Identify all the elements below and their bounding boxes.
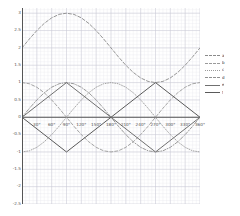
x-tick-label: 60° [48,123,55,127]
y-axis-spine [22,8,23,204]
x-tick-label: 120° [76,123,86,127]
legend-line-sample [205,85,220,86]
legend-item-label: c [222,68,224,72]
legend-item[interactable]: a [205,52,240,59]
y-tick-label: 2.5 [1,28,21,32]
legend-line-sample [205,55,220,56]
x-tick-label: 210° [121,123,131,127]
x-tick-label: 150° [91,123,101,127]
y-axis-tick-labels: 32.521.510.50-0.5-1-1.5-2-2.5 [0,8,21,204]
y-tick-label: 1 [1,80,21,84]
legend-item[interactable]: d [205,74,240,81]
legend-item-label: e [222,83,224,87]
chart-screenshot: 32.521.510.50-0.5-1-1.5-2-2.5 30°60°90°1… [0,0,240,216]
legend-item[interactable]: c [205,67,240,74]
plot-canvas [22,8,200,204]
legend-line-sample [205,92,220,93]
y-tick-label: 2 [1,46,21,50]
plot-area [22,8,200,204]
legend-item-label: a [222,54,224,58]
chart-legend: abcdef [205,52,240,98]
y-tick-label: -2 [1,184,21,188]
legend-item[interactable]: f [205,89,240,96]
legend-item-label: b [222,61,225,65]
x-tick-label: 30° [33,123,40,127]
legend-line-sample [205,63,220,64]
legend-item[interactable]: b [205,59,240,66]
y-tick-label: 3 [1,11,21,15]
x-tick-label: 360° [195,123,205,127]
legend-item-label: f [222,91,223,95]
y-tick-label: -1 [1,150,21,154]
x-tick-label: 240° [136,123,146,127]
legend-item[interactable]: e [205,82,240,89]
legend-line-sample [205,70,220,71]
x-tick-label: 300° [165,123,175,127]
legend-item-label: d [222,76,225,80]
y-tick-label: 0.5 [1,98,21,102]
y-tick-label: 1.5 [1,63,21,67]
x-tick-label: 180° [106,123,116,127]
legend-line-sample [205,77,220,78]
x-tick-label: 90° [63,123,70,127]
y-tick-label: -2.5 [1,202,21,206]
y-tick-label: -1.5 [1,167,21,171]
y-tick-label: -0.5 [1,132,21,136]
x-tick-label: 330° [180,123,190,127]
x-axis-tick-labels: 30°60°90°120°150°180°210°240°270°300°330… [22,123,200,131]
x-tick-label: 270° [150,123,160,127]
y-tick-label: 0 [1,115,21,119]
